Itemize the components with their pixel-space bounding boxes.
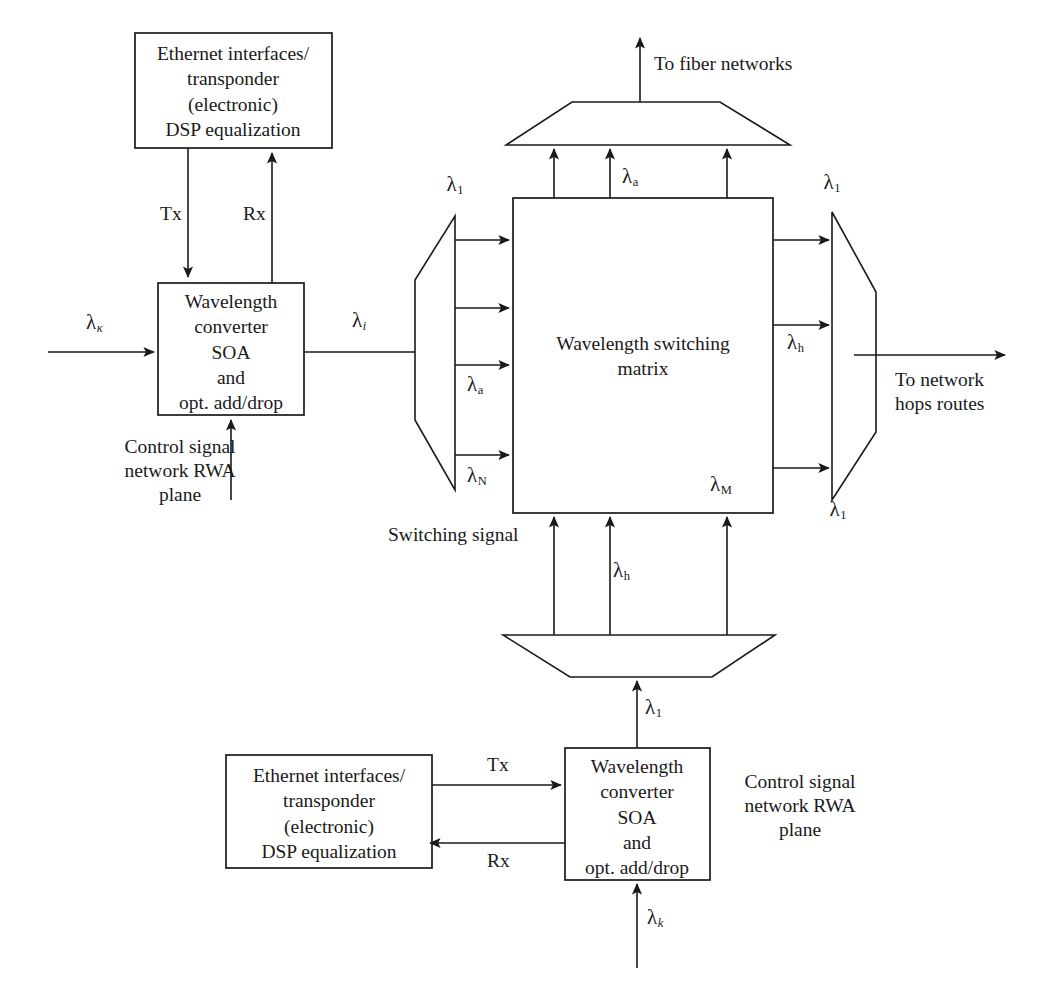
lambda-matrix-corner-label: λM: [710, 472, 732, 498]
converter-top-line-3: SOA: [156, 340, 306, 365]
lambda-glyph: λ: [622, 164, 632, 188]
fiber-mux-shape: [506, 102, 790, 145]
lambda-mux-top-label: λ1: [824, 170, 841, 196]
matrix-line-2: matrix: [518, 356, 768, 381]
lambda-glyph: λ: [824, 170, 834, 194]
to-network-line-2: hops routes: [895, 392, 984, 416]
converter-bottom-line-4: and: [562, 830, 712, 855]
lambda-switching-mid-label: λh: [613, 558, 630, 584]
lambda-sub: 1: [457, 183, 464, 197]
lambda-glyph: λ: [710, 472, 720, 496]
lambda-sub: h: [797, 341, 804, 355]
lambda-sub: 1: [840, 508, 847, 522]
lambda-input-left-label: λκ: [86, 310, 103, 336]
converter-bottom-line-3: SOA: [562, 805, 712, 830]
converter-bottom-line-1: Wavelength: [562, 754, 712, 779]
lambda-glyph: λ: [86, 310, 96, 334]
lambda-sub: a: [632, 175, 638, 189]
lambda-glyph: λ: [613, 558, 623, 582]
lambda-glyph: λ: [467, 372, 477, 396]
lambda-converter-out-label: λi: [352, 308, 366, 334]
control-left-line-2: network RWA: [124, 459, 235, 483]
ethernet-top-line-3: (electronic): [133, 92, 333, 117]
converter-top-line-1: Wavelength: [156, 289, 306, 314]
lambda-demux-top-label: λ1: [447, 172, 464, 198]
lambda-mux-mid-label: λh: [787, 330, 804, 356]
control-left-text: Control signal network RWA plane: [124, 435, 235, 508]
to-fiber-networks-label: To fiber networks: [654, 52, 792, 76]
ethernet-bottom-line-4: DSP equalization: [224, 839, 434, 864]
lambda-sub: 1: [834, 181, 841, 195]
optical-node-diagram: Ethernet interfaces/ transponder (electr…: [0, 0, 1050, 1002]
ethernet-top-text: Ethernet interfaces/ transponder (electr…: [133, 41, 333, 142]
lambda-sub: 1: [655, 706, 662, 720]
ethernet-top-line-4: DSP equalization: [133, 117, 333, 142]
lambda-sub: a: [477, 383, 483, 397]
lambda-matrix-up-mid-label: λa: [622, 164, 638, 190]
control-right-text: Control signal network RWA plane: [744, 770, 855, 843]
converter-top-line-2: converter: [156, 314, 306, 339]
lambda-glyph: λ: [830, 497, 840, 521]
control-left-line-3: plane: [124, 483, 235, 507]
lambda-glyph: λ: [352, 308, 362, 332]
tx-bottom-label: Tx: [487, 753, 509, 777]
converter-top-line-4: and: [156, 365, 306, 390]
converter-bottom-text: Wavelength converter SOA and opt. add/dr…: [562, 754, 712, 881]
control-right-line-2: network RWA: [744, 794, 855, 818]
tx-top-label: Tx: [160, 202, 182, 226]
matrix-line-1: Wavelength switching: [518, 331, 768, 356]
lambda-glyph: λ: [645, 695, 655, 719]
lambda-bottom-feed-label: λ1: [645, 695, 662, 721]
ethernet-top-line-2: transponder: [133, 66, 333, 91]
lambda-glyph: λ: [647, 905, 657, 929]
lambda-glyph: λ: [787, 330, 797, 354]
lambda-sub: N: [477, 474, 487, 488]
lambda-sub: κ: [96, 321, 103, 335]
lambda-mux-bottom-label: λ1: [830, 497, 847, 523]
control-right-line-3: plane: [744, 818, 855, 842]
converter-bottom-line-5: opt. add/drop: [562, 855, 712, 880]
rx-bottom-label: Rx: [487, 849, 510, 873]
converter-top-text: Wavelength converter SOA and opt. add/dr…: [156, 289, 306, 416]
lambda-glyph: λ: [467, 463, 477, 487]
lambda-sub: k: [657, 916, 663, 930]
converter-bottom-line-2: converter: [562, 779, 712, 804]
to-network-hops-text: To network hops routes: [895, 368, 984, 416]
mux-shape: [832, 212, 876, 500]
control-left-line-1: Control signal: [124, 435, 235, 459]
ethernet-bottom-line-1: Ethernet interfaces/: [224, 763, 434, 788]
demux-shape: [415, 216, 455, 490]
switching-demux-shape: [503, 635, 775, 677]
ethernet-top-line-1: Ethernet interfaces/: [133, 41, 333, 66]
lambda-demux-bottom-label: λN: [467, 463, 487, 489]
converter-top-line-5: opt. add/drop: [156, 390, 306, 415]
lambda-glyph: λ: [447, 172, 457, 196]
ethernet-bottom-line-3: (electronic): [224, 814, 434, 839]
switching-matrix-text: Wavelength switching matrix: [518, 331, 768, 382]
lambda-sub: M: [720, 483, 732, 497]
lambda-sub: h: [623, 569, 630, 583]
rx-top-label: Rx: [243, 202, 266, 226]
control-right-line-1: Control signal: [744, 770, 855, 794]
lambda-sub: i: [362, 319, 366, 333]
lambda-demux-mid-label: λa: [467, 372, 483, 398]
ethernet-bottom-text: Ethernet interfaces/ transponder (electr…: [224, 763, 434, 864]
lambda-input-bottom-label: λk: [647, 905, 663, 931]
switching-signal-label: Switching signal: [388, 523, 519, 547]
ethernet-bottom-line-2: transponder: [224, 788, 434, 813]
to-network-line-1: To network: [895, 368, 984, 392]
